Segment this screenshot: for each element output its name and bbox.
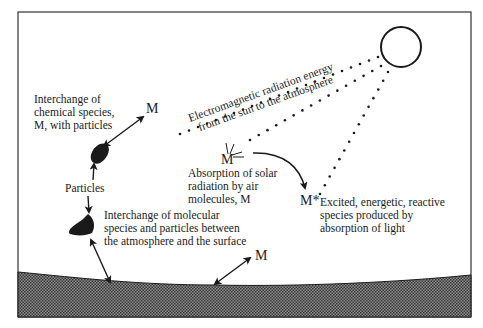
surface-exchange-label-line1: Interchange of molecular bbox=[104, 209, 220, 222]
radiation-dot bbox=[368, 59, 371, 62]
radiation-dot bbox=[348, 140, 351, 143]
radiation-dot bbox=[328, 175, 331, 178]
radiation-dot bbox=[377, 88, 380, 91]
absorption-label-line2: radiation by air bbox=[188, 180, 258, 193]
particle-exchange-label-line2: chemical species, bbox=[34, 106, 115, 119]
radiation-dot bbox=[343, 149, 346, 152]
radiation-dot bbox=[350, 66, 353, 69]
radiation-dot bbox=[338, 158, 341, 161]
radiation-dot bbox=[333, 167, 336, 170]
radiation-dot bbox=[292, 114, 295, 117]
radiation-dot bbox=[310, 104, 313, 107]
excited-label-line3: absorption of light bbox=[320, 222, 406, 235]
radiation-dot bbox=[359, 63, 362, 66]
radiation-dot bbox=[353, 132, 356, 135]
radiation-dot bbox=[257, 134, 260, 137]
radiation-dot bbox=[266, 129, 269, 132]
radiation-dot bbox=[380, 65, 383, 68]
radiation-dot bbox=[354, 80, 357, 83]
radiation-dot bbox=[275, 124, 278, 127]
radiation-dot bbox=[358, 123, 361, 126]
surface-exchange-label-line3: the atmosphere and the surface bbox=[104, 235, 246, 248]
radiation-dot bbox=[284, 119, 287, 122]
m-particle-symbol: M bbox=[146, 101, 159, 116]
radiation-dot bbox=[249, 139, 252, 142]
particles-arrow-up bbox=[93, 164, 94, 180]
absorption-label-line3: molecules, M bbox=[188, 193, 251, 206]
radiation-dot bbox=[179, 133, 182, 136]
m-absorb-symbol: M bbox=[221, 152, 234, 167]
absorption-label-line1: Absorption of solar bbox=[188, 167, 278, 180]
radiation-dot bbox=[362, 114, 365, 117]
m-excited-symbol: M* bbox=[300, 193, 319, 208]
radiation-dot bbox=[345, 84, 348, 87]
radiation-dot bbox=[341, 70, 344, 73]
radiation-dot bbox=[387, 71, 390, 74]
radiation-dot bbox=[372, 97, 375, 100]
radiation-dot bbox=[327, 94, 330, 97]
radiation-dot bbox=[377, 56, 380, 59]
particle-exchange-label-line3: M, with particles bbox=[34, 119, 113, 132]
radiation-dot bbox=[371, 70, 374, 73]
excited-label-line1: Excited, energetic, reactive bbox=[320, 196, 445, 209]
particles-arrow-down bbox=[88, 196, 89, 212]
particle-exchange-label-line1: Interchange of bbox=[34, 93, 101, 106]
radiation-dot bbox=[332, 73, 335, 76]
radiation-dot bbox=[382, 79, 385, 82]
radiation-dot bbox=[324, 184, 327, 187]
diagram-frame bbox=[18, 12, 471, 317]
m-surface-symbol: M bbox=[255, 248, 268, 263]
radiation-dot bbox=[336, 89, 339, 92]
radiation-dot bbox=[362, 75, 365, 78]
radiation-dot bbox=[367, 106, 370, 109]
atmosphere-diagram: Electromagnetic radiation energy from th… bbox=[0, 0, 483, 328]
radiation-dot bbox=[301, 109, 304, 112]
particles-label: Particles bbox=[65, 182, 105, 194]
surface-exchange-label-line2: species and particles between bbox=[104, 222, 240, 235]
excited-label-line2: species produced by bbox=[320, 209, 413, 222]
radiation-dot bbox=[188, 129, 191, 132]
radiation-dot bbox=[319, 99, 322, 102]
